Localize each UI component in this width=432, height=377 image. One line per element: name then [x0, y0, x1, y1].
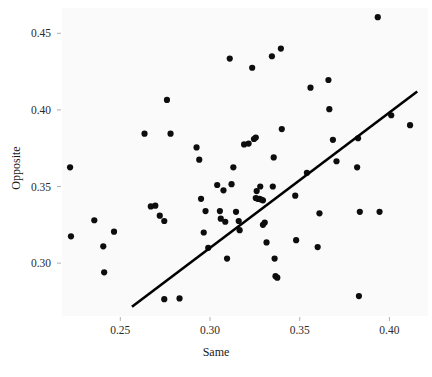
- x-axis-ticks: 0.250.300.350.40: [110, 317, 399, 336]
- scatter-point: [357, 209, 363, 215]
- scatter-point: [167, 131, 173, 137]
- scatter-point: [176, 295, 182, 301]
- scatter-point: [101, 269, 107, 275]
- scatter-point: [375, 14, 381, 20]
- scatter-point: [326, 106, 332, 112]
- scatter-point: [274, 275, 280, 281]
- scatter-plot-figure: 0.250.300.350.40 0.300.350.400.45 Same O…: [0, 0, 432, 377]
- scatter-point: [157, 213, 163, 219]
- scatter-point: [278, 46, 284, 52]
- scatter-point: [141, 131, 147, 137]
- scatter-point: [315, 244, 321, 250]
- scatter-point: [354, 164, 360, 170]
- scatter-point: [272, 255, 278, 261]
- data-points: [67, 14, 413, 302]
- scatter-point: [333, 158, 339, 164]
- scatter-point: [316, 210, 322, 216]
- scatter-point: [263, 239, 269, 245]
- scatter-point: [330, 137, 336, 143]
- scatter-point: [376, 209, 382, 215]
- scatter-point: [67, 164, 73, 170]
- scatter-point: [253, 134, 259, 140]
- x-tick-label: 0.25: [110, 324, 130, 336]
- scatter-point: [193, 144, 199, 150]
- scatter-point: [230, 164, 236, 170]
- chart-canvas: 0.250.300.350.40 0.300.350.400.45 Same O…: [0, 0, 432, 377]
- scatter-point: [356, 293, 362, 299]
- scatter-point: [325, 77, 331, 83]
- x-axis-title: Same: [203, 345, 230, 359]
- scatter-point: [198, 196, 204, 202]
- scatter-point: [293, 237, 299, 243]
- y-tick-label: 0.30: [31, 257, 51, 269]
- scatter-point: [228, 181, 234, 187]
- scatter-point: [227, 55, 233, 61]
- x-tick-label: 0.30: [200, 324, 220, 336]
- scatter-point: [271, 154, 277, 160]
- scatter-point: [245, 141, 251, 147]
- scatter-point: [257, 183, 263, 189]
- scatter-point: [224, 255, 230, 261]
- y-tick-label: 0.35: [31, 181, 51, 193]
- scatter-point: [152, 203, 158, 209]
- scatter-point: [279, 126, 285, 132]
- scatter-point: [161, 218, 167, 224]
- scatter-point: [202, 208, 208, 214]
- scatter-point: [68, 233, 74, 239]
- scatter-point: [161, 296, 167, 302]
- scatter-point: [222, 219, 228, 225]
- x-tick-label: 0.35: [290, 324, 310, 336]
- scatter-point: [91, 217, 97, 223]
- scatter-point: [269, 53, 275, 59]
- scatter-point: [260, 197, 266, 203]
- y-axis-ticks: 0.300.350.400.45: [31, 27, 61, 269]
- scatter-point: [164, 97, 170, 103]
- y-tick-label: 0.45: [31, 27, 51, 39]
- scatter-point: [111, 229, 117, 235]
- scatter-point: [262, 219, 268, 225]
- scatter-point: [217, 208, 223, 214]
- scatter-point: [407, 122, 413, 128]
- y-tick-label: 0.40: [31, 104, 51, 116]
- scatter-point: [201, 229, 207, 235]
- y-axis-title: Opposite: [9, 146, 23, 189]
- x-tick-label: 0.40: [379, 324, 399, 336]
- scatter-point: [100, 243, 106, 249]
- scatter-point: [307, 85, 313, 91]
- scatter-point: [292, 193, 298, 199]
- scatter-point: [249, 65, 255, 71]
- scatter-point: [196, 157, 202, 163]
- scatter-point: [270, 183, 276, 189]
- scatter-point: [233, 209, 239, 215]
- scatter-point: [220, 187, 226, 193]
- scatter-point: [214, 182, 220, 188]
